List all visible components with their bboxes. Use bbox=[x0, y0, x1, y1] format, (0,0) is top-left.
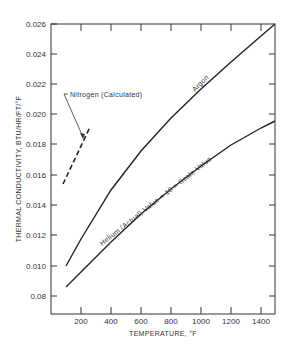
y-tick-label: 0.018 bbox=[26, 140, 47, 149]
plot-frame bbox=[51, 24, 275, 314]
y-tick-labels: 0.026 0.024 0.022 0.020 0.018 0.016 0.01… bbox=[26, 20, 47, 301]
x-tick-label: 400 bbox=[104, 317, 118, 326]
x-tick-label: 600 bbox=[134, 317, 148, 326]
x-tick-label: 1200 bbox=[222, 317, 240, 326]
x-tick-label: 1000 bbox=[192, 317, 210, 326]
x-tick-label: 800 bbox=[164, 317, 178, 326]
helium-label: Helium (Actual) Value = 10 × Scale Value bbox=[98, 155, 213, 247]
nitrogen-line bbox=[63, 127, 90, 184]
y-tick-label: 0.014 bbox=[26, 201, 47, 210]
y-tick-label: 0.026 bbox=[26, 20, 47, 29]
y-tick-label: 0.024 bbox=[26, 50, 47, 59]
nitrogen-label: Nitrogen (Calculated) bbox=[70, 91, 142, 99]
x-axis-title: TEMPERATURE, °F bbox=[129, 330, 197, 337]
chart: 0.026 0.024 0.022 0.020 0.018 0.016 0.01… bbox=[0, 0, 289, 347]
x-ticks-bottom bbox=[81, 307, 261, 314]
y-tick-label: 0.020 bbox=[26, 110, 47, 119]
x-tick-label: 200 bbox=[74, 317, 88, 326]
y-ticks-left bbox=[51, 24, 57, 296]
y-tick-label: 0.010 bbox=[26, 262, 47, 271]
x-ticks-top bbox=[81, 24, 261, 31]
y-tick-label: 0.012 bbox=[26, 231, 47, 240]
y-ticks-right bbox=[269, 54, 275, 296]
helium-line bbox=[66, 121, 275, 287]
x-tick-label: 1400 bbox=[252, 317, 270, 326]
y-tick-label: 0.016 bbox=[26, 171, 47, 180]
x-tick-labels: 200 400 600 800 1000 1200 1400 bbox=[74, 317, 270, 326]
nitrogen-leader bbox=[64, 94, 83, 137]
y-tick-label: 0.08 bbox=[30, 292, 46, 301]
argon-line bbox=[66, 24, 275, 266]
y-tick-label: 0.022 bbox=[26, 80, 47, 89]
y-axis-title: THERMAL CONDUCTIVITY, BTU/HR/FT/°F bbox=[15, 96, 22, 242]
